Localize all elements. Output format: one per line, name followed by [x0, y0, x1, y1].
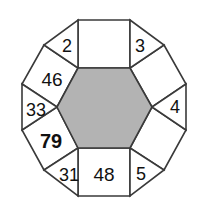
- triangle-bottom-right-label: 5: [136, 164, 146, 184]
- triangle-left-label: 33: [26, 100, 46, 120]
- square-top[interactable]: [78, 20, 130, 68]
- square-lower-left-label: 79: [40, 130, 62, 152]
- square-upper-left-label: 46: [41, 69, 62, 90]
- triangle-top-left-label: 2: [62, 36, 72, 56]
- square-bottom-label: 48: [93, 164, 114, 185]
- triangle-top-right-label: 3: [135, 36, 145, 56]
- hexagon-puzzle-diagram: 2 3 46 4 33 79 31 48 5: [0, 0, 204, 213]
- triangle-bottom-left-label: 31: [59, 165, 79, 185]
- puzzle-figure-container: 2 3 46 4 33 79 31 48 5: [0, 0, 204, 213]
- triangle-right-label: 4: [170, 97, 180, 117]
